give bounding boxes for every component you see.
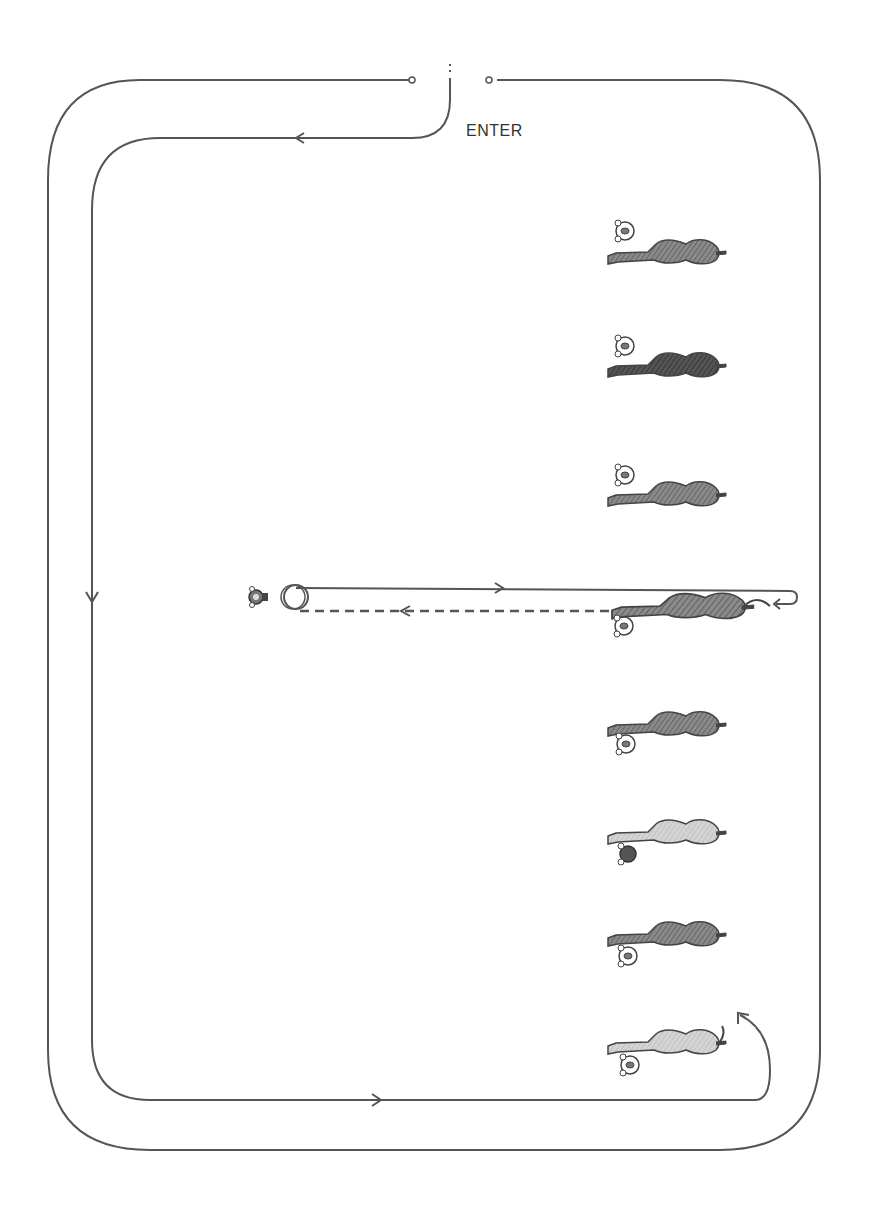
lineup-horse-4-working bbox=[612, 593, 770, 637]
lineup-horse-8 bbox=[608, 1026, 726, 1076]
lineup-horse-2 bbox=[608, 335, 726, 377]
lineup-horse-1 bbox=[608, 220, 726, 264]
judge-icon bbox=[249, 587, 268, 608]
gate-post-right bbox=[486, 77, 492, 83]
enter-label: ENTER bbox=[466, 122, 523, 140]
lineup-horse-6 bbox=[608, 820, 726, 865]
gate-post-left bbox=[409, 77, 415, 83]
lineup-horse-3 bbox=[608, 464, 726, 506]
lineup-horse-5 bbox=[608, 712, 726, 755]
lineup-horse-7 bbox=[608, 922, 726, 967]
show-pattern-diagram bbox=[0, 0, 874, 1216]
